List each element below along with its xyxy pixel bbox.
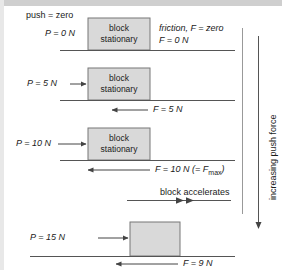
friction-note-line2: F = 0 N <box>159 35 189 46</box>
block-label-line1-stage-3: block <box>88 133 150 143</box>
push-label-stage-4: P = 15 N <box>30 232 65 243</box>
block-label-line2-stage-2: stationary <box>88 84 150 94</box>
block-label-line1-stage-1: block <box>88 23 150 33</box>
acceleration-arrowhead-1 <box>176 197 184 204</box>
block-accelerates-label: block accelerates <box>160 187 230 198</box>
block-label-line1-stage-2: block <box>88 73 150 83</box>
acceleration-arrowhead-2 <box>186 197 194 204</box>
friction-label-stage-3: F = 10 N (= Fmax) <box>155 164 225 178</box>
friction-note-line1: friction, F = zero <box>159 23 224 34</box>
block-stage-4 <box>130 222 180 256</box>
friction-label-stage-2: F = 5 N <box>153 104 183 115</box>
push-zero-heading: push = zero <box>26 10 73 21</box>
friction-label-stage-3-end: ) <box>222 164 225 174</box>
push-label-stage-2: P = 5 N <box>27 78 57 89</box>
increasing-push-force-label: increasing push force <box>268 114 278 200</box>
friction-label-stage-3-main: F = 10 N (= F <box>155 164 208 174</box>
block-label-line2-stage-1: stationary <box>88 34 150 44</box>
push-label-stage-3: P = 10 N <box>16 138 51 149</box>
push-label-stage-1: P = 0 N <box>45 28 75 39</box>
friction-label-stage-3-sub: max <box>208 169 221 176</box>
friction-diagram: push = zero P = 0 N block stationary fri… <box>0 0 282 270</box>
block-label-line2-stage-3: stationary <box>88 144 150 154</box>
friction-label-stage-4: F = 9 N <box>183 258 213 269</box>
